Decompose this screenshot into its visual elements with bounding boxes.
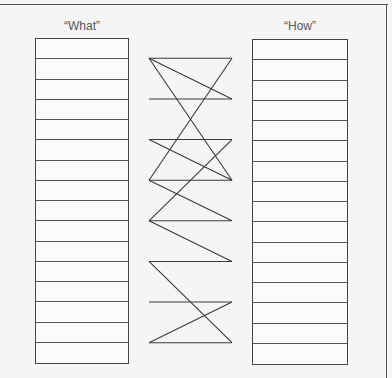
connection-lines xyxy=(0,0,392,378)
connection-line xyxy=(149,58,232,99)
connection-line xyxy=(149,180,232,221)
connection-line xyxy=(149,221,232,262)
connection-line xyxy=(149,140,232,181)
connection-line xyxy=(149,302,232,343)
